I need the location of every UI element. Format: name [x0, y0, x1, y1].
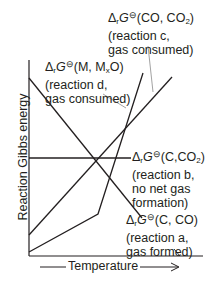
label-reaction-b: ΔrG⊖(C,CO2) (reaction b, no net gas form… — [132, 147, 205, 210]
label-reaction-d: ΔrG⊖(M, MxO) (reaction d, gas consumed) — [45, 57, 130, 106]
x-axis-label: Temperature — [68, 259, 138, 273]
label-reaction-a: ΔrG⊖(C, CO) (reaction a, gas formed) — [126, 210, 198, 259]
label-reaction-c: ΔrG⊖(CO, CO2) (reaction c, gas consumed) — [108, 8, 194, 57]
y-axis-label: Reaction Gibbs energy — [16, 92, 30, 222]
